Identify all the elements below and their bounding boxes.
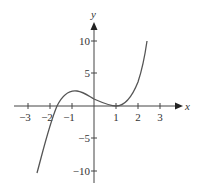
function-curve [37,41,147,173]
x-tick-label: 2 [135,111,141,123]
y-tick-label: −5 [78,132,90,144]
x-tick-labels: −3 −2 −1 1 2 3 [19,111,163,123]
x-tick-label: −3 [19,111,31,123]
x-axis-label: x [184,100,190,112]
y-axis-arrow-icon [91,22,98,30]
chart-svg: x y −3 −2 −1 1 2 3 10 [0,0,199,194]
x-axis-arrow-icon [175,103,183,110]
x-tick-label: 3 [157,111,163,123]
y-tick-label: −10 [73,165,91,177]
x-tick-label: −1 [63,111,75,123]
y-tick-label: 5 [85,67,91,79]
function-graph: x y −3 −2 −1 1 2 3 10 [0,0,199,194]
y-axis-label: y [90,8,96,20]
y-tick-label: 10 [79,35,91,47]
x-tick-label: 1 [113,111,119,123]
